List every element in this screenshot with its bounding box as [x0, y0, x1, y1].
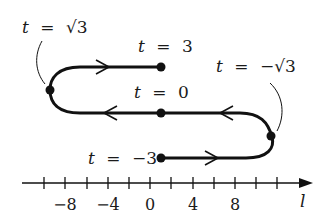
point-t-3: [157, 63, 166, 72]
tick-label-4: 4: [188, 195, 198, 214]
label-t-sqrt3: t = √3: [22, 17, 88, 37]
leader-neg-sqrt3: [270, 83, 282, 131]
tick-label-neg8: −8: [53, 195, 77, 214]
point-t-sqrt3: [46, 86, 55, 95]
label-t-0: t = 0: [134, 82, 189, 102]
axis-label-l: l: [300, 191, 305, 211]
label-t-neg-sqrt3: t = −√3: [216, 56, 296, 76]
tick-label-0: 0: [145, 195, 155, 214]
tick-label-8: 8: [230, 195, 240, 214]
l-axis: −8 −4 0 4 8 l: [22, 177, 313, 214]
label-t-3: t = 3: [138, 36, 193, 56]
label-t-neg3: t = −3: [88, 148, 157, 168]
axis-arrowhead-icon: [299, 178, 313, 188]
point-t-neg-sqrt3: [267, 132, 276, 141]
leader-sqrt3: [37, 41, 45, 84]
point-t-0: [157, 109, 166, 118]
point-t-neg3: [157, 154, 166, 163]
tick-label-neg4: −4: [96, 195, 120, 214]
motion-diagram: t = √3 t = 3 t = 0 t = −√3 t = −3: [0, 0, 332, 222]
